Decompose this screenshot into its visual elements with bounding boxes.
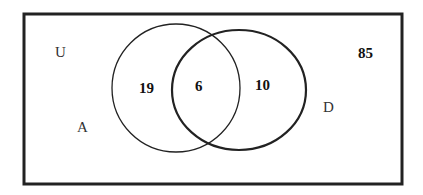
intersection-count: 6 — [195, 79, 203, 94]
set-a-circle — [112, 24, 240, 152]
a-only-count: 19 — [139, 81, 154, 96]
set-a-label: A — [77, 120, 88, 135]
venn-diagram — [0, 0, 423, 195]
set-d-circle — [172, 30, 306, 150]
universe-label: U — [55, 45, 66, 60]
set-d-label: D — [323, 100, 334, 115]
d-only-count: 10 — [255, 78, 270, 93]
universe-rectangle — [24, 14, 402, 184]
outside-count: 85 — [358, 46, 373, 61]
